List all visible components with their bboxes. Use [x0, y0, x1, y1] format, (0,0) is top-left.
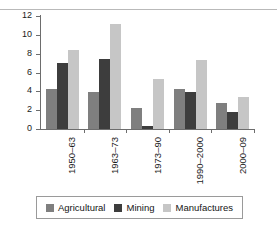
x-axis-label: 1950–63 [67, 137, 77, 174]
legend-swatch-icon [46, 204, 54, 212]
bar-mining-4 [227, 112, 238, 129]
bar-chart: 024681012 1950–631963–731973–901990–2000… [0, 0, 277, 228]
y-tick-mark [36, 16, 40, 17]
legend-label: Mining [126, 203, 154, 213]
bar-group [174, 16, 207, 129]
bar-mining-2 [142, 126, 153, 129]
y-tick-mark [36, 129, 40, 130]
bar-mining-3 [185, 92, 196, 129]
x-tick-mark [126, 129, 127, 133]
y-tick-label: 6 [6, 68, 32, 77]
bar-manufactures-1 [110, 24, 121, 129]
y-tick-label: 4 [6, 86, 32, 95]
bar-agricultural-0 [46, 89, 57, 129]
bar-group [216, 16, 249, 129]
legend-swatch-icon [114, 204, 122, 212]
bar-agricultural-1 [88, 92, 99, 129]
x-axis-line [40, 129, 255, 130]
y-tick-mark [36, 73, 40, 74]
bar-agricultural-2 [131, 108, 142, 129]
bar-agricultural-4 [216, 103, 227, 129]
bar-agricultural-3 [174, 89, 185, 129]
legend-swatch-icon [163, 204, 171, 212]
x-axis-label: 1973–90 [153, 137, 163, 174]
x-tick-mark [169, 129, 170, 133]
bar-manufactures-2 [153, 79, 164, 129]
x-tick-mark [211, 129, 212, 133]
bar-mining-1 [99, 59, 110, 129]
bar-manufactures-4 [238, 97, 249, 129]
x-tick-mark [254, 129, 255, 133]
x-axis-label: 1990–2000 [195, 137, 205, 185]
bar-group [131, 16, 164, 129]
legend-label: Agricultural [58, 203, 106, 213]
y-tick-label: 2 [6, 105, 32, 114]
x-axis-label: 2000–09 [238, 137, 248, 174]
x-axis-label: 1963–73 [110, 137, 120, 174]
bar-group [88, 16, 121, 129]
bar-manufactures-0 [68, 50, 79, 129]
y-tick-mark [36, 110, 40, 111]
legend-label: Manufactures [175, 203, 233, 213]
y-tick-mark [36, 54, 40, 55]
bar-group [46, 16, 79, 129]
legend-item-mining[interactable]: Mining [114, 203, 154, 213]
bar-mining-0 [57, 63, 68, 129]
bar-manufactures-3 [196, 60, 207, 129]
chart-legend: AgriculturalMiningManufactures [36, 196, 243, 219]
y-tick-label: 10 [6, 30, 32, 39]
y-tick-label: 12 [6, 11, 32, 20]
y-tick-mark [36, 91, 40, 92]
plot-area [41, 16, 254, 129]
y-tick-label: 0 [6, 124, 32, 133]
legend-item-agricultural[interactable]: Agricultural [46, 203, 106, 213]
legend-item-manufactures[interactable]: Manufactures [163, 203, 233, 213]
y-tick-label: 8 [6, 49, 32, 58]
top-divider-rule [0, 9, 277, 10]
y-tick-mark [36, 35, 40, 36]
x-tick-mark [84, 129, 85, 133]
